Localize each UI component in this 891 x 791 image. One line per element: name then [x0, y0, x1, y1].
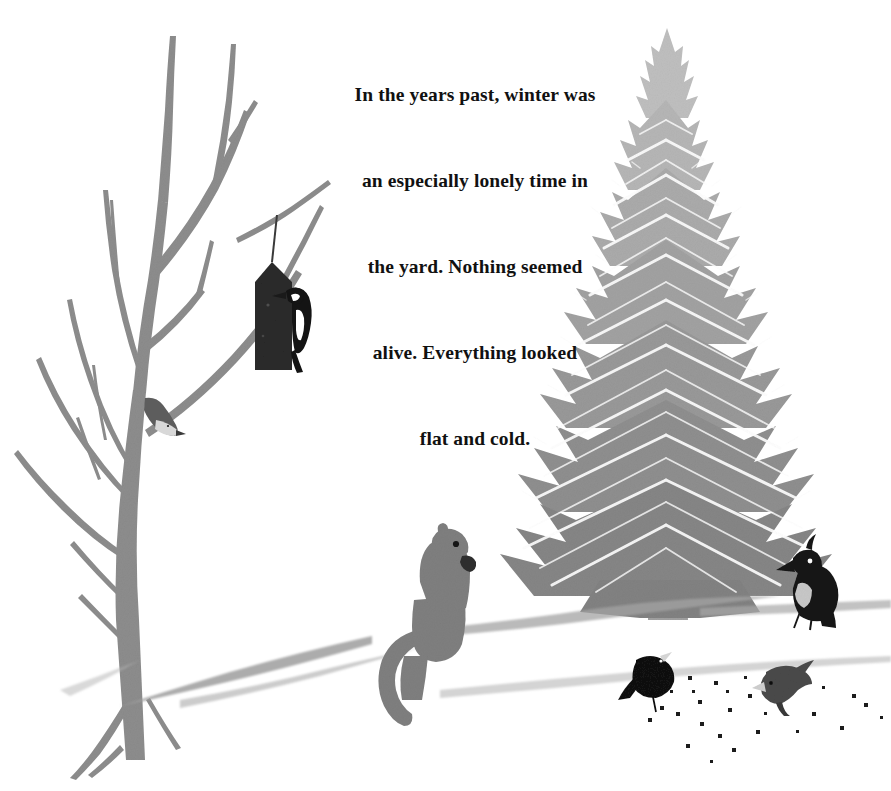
- page-caption: In the years past, winter was an especia…: [330, 30, 620, 503]
- caption-line-2: an especially lonely time in: [330, 159, 620, 202]
- illustration-page: In the years past, winter was an especia…: [0, 0, 891, 791]
- caption-line-1: In the years past, winter was: [330, 73, 620, 116]
- caption-line-3: the yard. Nothing seemed: [330, 245, 620, 288]
- caption-line-5: flat and cold.: [330, 417, 620, 460]
- caption-line-4: alive. Everything looked: [330, 331, 620, 374]
